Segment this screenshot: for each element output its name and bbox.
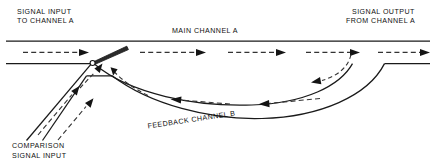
signal-output-label-line2: FROM CHANNEL A	[346, 17, 415, 25]
feedback-injection-flow-line	[115, 73, 148, 96]
feedback-channel-outer-wall	[87, 64, 385, 119]
main-midstream-flow-arrowhead	[196, 49, 206, 56]
signal-output-label-line1: SIGNAL OUTPUT	[352, 8, 415, 16]
main-midstream-flow-arrowhead-2	[276, 49, 286, 56]
feedback-tap-flow-line	[322, 55, 351, 81]
main-preoutput-flow-arrowhead	[350, 49, 360, 56]
feedback-return-flow-right-arrowhead	[259, 100, 270, 107]
main-channel-label: MAIN CHANNEL A	[172, 27, 238, 35]
signal-input-label-line1: SIGNAL INPUT	[17, 8, 72, 16]
diagram-canvas: SIGNAL INPUT TO CHANNEL A SIGNAL OUTPUT …	[0, 0, 436, 165]
comparison-input-label-line2: SIGNAL INPUT	[12, 152, 67, 160]
feedback-tap-flow-arrowhead	[311, 77, 321, 84]
feedback-channel-inner-wall	[95, 64, 353, 106]
main-outlet-flow-arrowhead	[420, 49, 430, 56]
fluidic-channel-diagram: SIGNAL INPUT TO CHANNEL A SIGNAL OUTPUT …	[0, 0, 436, 165]
feedback-channel-label: FEEDBACK CHANNEL B	[147, 109, 236, 130]
comparison-input-upper-wall	[27, 64, 92, 141]
main-inlet-flow-arrowhead	[79, 49, 89, 56]
signal-input-label-line2: TO CHANNEL A	[17, 17, 74, 25]
comparison-input-lower-wall	[43, 76, 87, 141]
comparison-inlet-flow-line	[38, 95, 72, 136]
comparison-input-label-line1: COMPARISON	[12, 142, 64, 150]
comparison-inlet-flow-arrowhead	[71, 86, 79, 96]
comparison-secondary-flow-arrowhead	[85, 98, 94, 108]
junction-pivot-dot	[90, 61, 95, 66]
splitter-wedge	[93, 46, 129, 64]
